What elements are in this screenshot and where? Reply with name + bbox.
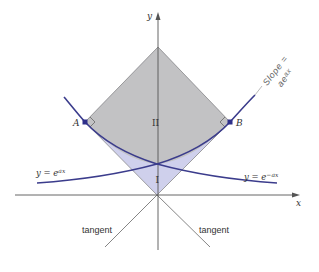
exponential-tangent-diagram: A B II I y x y = eax y = e−ax tangent ta… [0, 0, 319, 272]
curve-label-e-neg-ax-base: y = e [243, 172, 266, 182]
slope-pointer-line [255, 86, 262, 95]
curve-label-e-ax-exponent: ax [58, 167, 66, 174]
tangent-line-right [157, 195, 210, 247]
tangent-label-left: tangent [82, 225, 113, 235]
curve-label-e-neg-ax: y = e−ax [243, 171, 279, 182]
region-i-label: I [156, 175, 160, 185]
point-b-label: B [235, 118, 243, 128]
x-axis-label: x [296, 198, 301, 208]
region-ii-fill [60, 20, 260, 164]
tangent-line-left [105, 195, 157, 247]
curve-label-e-neg-ax-exponent: −ax [266, 171, 279, 178]
point-a-label: A [72, 118, 80, 128]
region-ii-label: II [152, 118, 160, 128]
y-axis-arrow-icon [156, 12, 161, 20]
curve-label-e-ax-base: y = e [35, 168, 58, 178]
point-b [228, 120, 233, 125]
curve-label-e-ax: y = eax [35, 167, 66, 178]
y-axis-label: y [146, 11, 153, 21]
slope-annotation: Slope = aeax [261, 54, 300, 95]
tangent-label-right: tangent [199, 225, 230, 235]
point-a [83, 120, 88, 125]
x-axis-arrow-icon [292, 193, 300, 198]
